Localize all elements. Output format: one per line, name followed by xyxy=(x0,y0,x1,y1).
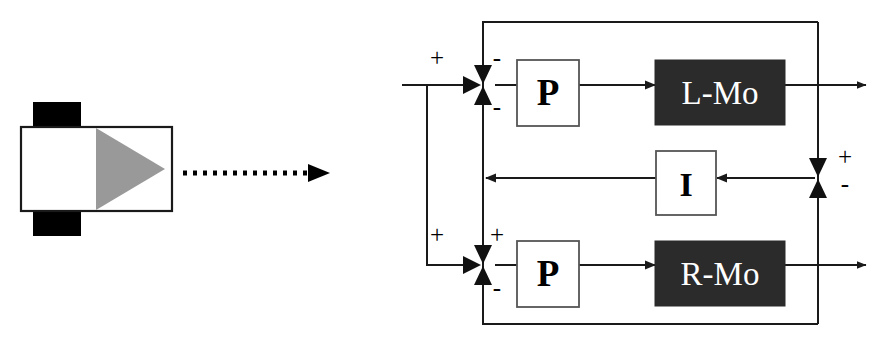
blocks-layer: P L-Mo I P R-Mo xyxy=(517,60,785,307)
sign-top-minus-lower: - xyxy=(493,93,501,120)
sign-right-minus: - xyxy=(841,170,849,197)
robot-wheel-bottom xyxy=(33,210,81,236)
block-p-bottom[interactable]: P xyxy=(517,241,579,307)
block-l-mo-label: L-Mo xyxy=(682,75,759,111)
summing-junction-top-left xyxy=(463,65,492,105)
block-p-top[interactable]: P xyxy=(517,60,579,126)
sign-labels: + - - + + - + - xyxy=(430,44,852,301)
mobile-robot-icon xyxy=(21,102,172,236)
sign-bottom-plus-right: + xyxy=(490,221,504,248)
block-i-label: I xyxy=(679,166,692,203)
junction-arrow-up xyxy=(474,86,492,105)
summing-junction-bottom-left xyxy=(463,245,492,285)
robot-wheel-top xyxy=(33,102,81,128)
junction-arrow-down xyxy=(474,65,492,84)
sign-top-minus-upper: - xyxy=(493,44,501,71)
diagram-canvas: P L-Mo I P R-Mo + - - xyxy=(0,0,888,344)
sign-top-plus: + xyxy=(430,44,444,71)
block-p-top-label: P xyxy=(537,72,560,113)
block-diagram-svg: P L-Mo I P R-Mo + - - xyxy=(0,0,888,344)
junction-arrow-right xyxy=(463,76,481,94)
block-p-bottom-label: P xyxy=(537,253,560,294)
block-l-mo[interactable]: L-Mo xyxy=(655,60,785,125)
sign-bottom-plus-left: + xyxy=(430,221,444,248)
junction-arrow-up xyxy=(809,179,827,198)
junction-arrow-down xyxy=(809,158,827,177)
block-r-mo-label: R-Mo xyxy=(681,256,760,292)
sign-right-plus: + xyxy=(838,143,852,170)
control-loop-wiring xyxy=(402,22,866,324)
dotted-motion-arrow xyxy=(183,164,330,182)
block-r-mo[interactable]: R-Mo xyxy=(655,241,785,306)
junction-arrow-right xyxy=(463,256,481,274)
junction-arrow-up xyxy=(474,266,492,285)
sign-bottom-minus: - xyxy=(493,274,501,301)
block-i[interactable]: I xyxy=(656,151,716,215)
